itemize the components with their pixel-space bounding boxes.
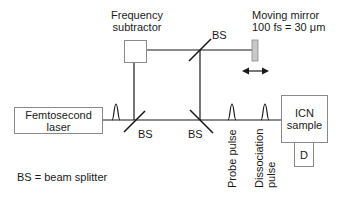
legend-text: BS = beam splitter (17, 171, 107, 183)
arrow-left-icon (242, 68, 249, 75)
mirror-label-line2: 100 fs = 30 μm (252, 21, 324, 33)
dissociation-pulse-label-line2: pulse (265, 162, 277, 188)
bs-label-top: BS (212, 29, 227, 41)
optical-setup-diagram: Femtosecond laser Frequency subtractor M… (0, 0, 340, 197)
pulse-icon (112, 104, 120, 120)
dissociation-pulse-label-line1: Dissociation (253, 129, 265, 188)
freq-label-line1: Frequency (108, 9, 166, 21)
laser-label-line2: laser (47, 121, 71, 133)
bs-label-2: BS (188, 128, 203, 140)
detector-label: D (300, 149, 308, 161)
mirror-label-line1: Moving mirror (252, 9, 324, 21)
femtosecond-laser-box: Femtosecond laser (14, 107, 103, 134)
frequency-subtractor-label: Frequency subtractor (108, 9, 166, 33)
arrow-right-icon (262, 68, 269, 75)
frequency-subtractor-box (124, 40, 147, 63)
probe-pulse-label: Probe pulse (226, 129, 238, 188)
moving-mirror (252, 40, 258, 61)
sample-label-line2: sample (287, 119, 322, 131)
dissociation-pulse-icon (261, 104, 269, 120)
moving-mirror-label: Moving mirror 100 fs = 30 μm (252, 9, 324, 33)
bs-label-1: BS (138, 128, 153, 140)
laser-label-line1: Femtosecond (25, 109, 92, 121)
detector-box: D (294, 142, 314, 167)
icn-sample-box: ICN sample (281, 95, 328, 143)
sample-label-line1: ICN (295, 107, 314, 119)
freq-label-line2: subtractor (108, 21, 166, 33)
probe-pulse-icon (228, 104, 236, 120)
